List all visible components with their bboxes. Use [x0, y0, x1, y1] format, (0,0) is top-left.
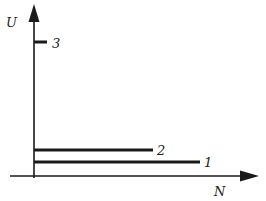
diagram-canvas: U N 3 2 1	[0, 0, 266, 201]
u-axis-label: U	[6, 15, 18, 30]
level-label-1: 1	[204, 155, 212, 170]
n-axis-label: N	[213, 184, 226, 199]
u-axis-arrow-icon	[29, 4, 40, 22]
level-label-3: 3	[52, 36, 60, 51]
level-label-2: 2	[156, 143, 165, 158]
n-axis-arrow-icon	[240, 171, 259, 182]
